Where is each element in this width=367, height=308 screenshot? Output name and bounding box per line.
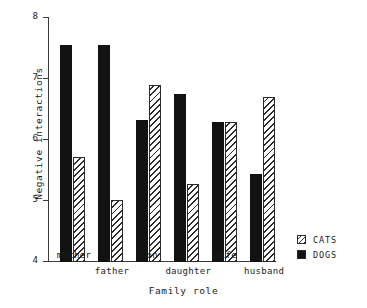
x-axis-label-daughter: daughter [165,266,211,276]
x-axis-label-husband: husband [244,266,284,276]
x-axis-label-father: father [95,266,129,276]
bar-group [250,18,276,262]
x-axis-label-wife: wife [214,250,237,260]
bar-cats [149,85,161,262]
legend-swatch-dogs-icon [297,250,306,259]
legend-item-cats: CATS [297,232,337,247]
y-axis-tick-label: 7 [33,72,38,83]
bar-group [98,18,124,262]
bar-cats [225,122,237,262]
bar-dogs [60,45,72,262]
bar-cats [187,184,199,262]
y-axis-tick: 8 [43,17,49,18]
y-axis-tick-label: 8 [33,11,38,22]
bar-dogs [250,174,262,262]
bar-dogs [98,45,110,262]
y-axis-tick: 7 [43,78,49,79]
bar-group [212,18,238,262]
x-axis-label-mother: mother [57,250,91,260]
legend-swatch-cats-icon [297,235,306,244]
legend-label-dogs: DOGS [313,250,337,260]
legend-item-dogs: DOGS [297,247,337,262]
bar-dogs [136,120,148,262]
y-axis-tick-label: 4 [33,255,38,266]
bar-cats [73,157,85,262]
bar-group [60,18,86,262]
bar-group [136,18,162,262]
y-axis-tick: 6 [43,139,49,140]
bar-dogs [174,94,186,262]
bar-cats [263,97,275,262]
legend-label-cats: CATS [313,235,337,245]
plot-area: 45678 [48,18,276,262]
bar-cats [111,200,123,262]
x-axis-label-son: son [141,250,158,260]
y-axis-tick: 5 [43,200,49,201]
bar-group [174,18,200,262]
x-axis-title: Family role [0,285,367,296]
legend: CATS DOGS [297,232,337,262]
y-axis-tick: 4 [43,261,49,262]
y-axis-line [48,18,49,262]
y-axis-tick-label: 5 [33,194,38,205]
y-axis-tick-label: 6 [33,133,38,144]
bar-dogs [212,122,224,262]
bar-chart: Negative interactions 45678 motherfather… [0,0,367,308]
